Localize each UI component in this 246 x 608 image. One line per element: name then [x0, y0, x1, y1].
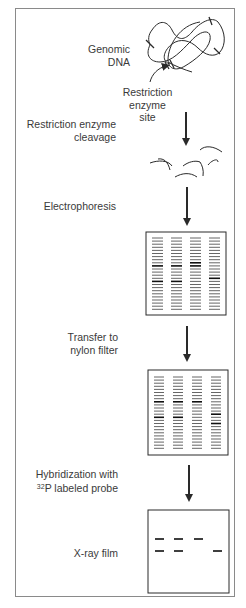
genomic-dna-icon	[148, 20, 224, 72]
gel-bands	[152, 238, 220, 309]
site-pointer-arrow	[150, 66, 166, 82]
dna-fragments-icon	[150, 147, 222, 177]
diagram-graphics	[0, 0, 246, 608]
filter-bands	[154, 377, 221, 448]
xray-bands	[155, 539, 222, 551]
